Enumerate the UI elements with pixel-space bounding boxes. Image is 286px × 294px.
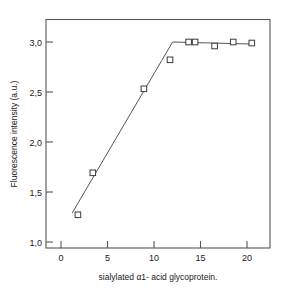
scatter-plot: 3,0 2,5 2,0 1,5 1,0 0 5 10 15 20 sialyla…	[0, 0, 286, 294]
data-point	[186, 39, 192, 45]
data-point	[249, 40, 255, 46]
y-tick-label-2-5: 2,5	[29, 88, 42, 98]
y-axis-title: Fluorescence intensity (a.u.)	[9, 80, 19, 187]
y-tick-label-3-0: 3,0	[29, 38, 42, 48]
y-tick-label-1-5: 1,5	[29, 188, 42, 198]
x-tick-label-0: 0	[58, 253, 63, 263]
data-point	[212, 43, 218, 49]
y-tick-label-1-0: 1,0	[29, 238, 42, 248]
chart-figure: 3,0 2,5 2,0 1,5 1,0 0 5 10 15 20 sialyla…	[0, 0, 286, 294]
data-point	[230, 39, 236, 45]
data-point	[192, 39, 198, 45]
x-tick-label-5: 5	[105, 253, 110, 263]
y-tick-label-2-0: 2,0	[29, 138, 42, 148]
data-point	[75, 212, 81, 218]
x-tick-label-15: 15	[195, 253, 205, 263]
x-tick-label-10: 10	[149, 253, 159, 263]
x-tick-label-20: 20	[242, 253, 252, 263]
data-point	[90, 170, 96, 176]
x-axis-title: sialylated α1- acid glycoprotein.	[99, 272, 218, 282]
data-point	[167, 57, 173, 63]
data-point	[141, 86, 147, 92]
